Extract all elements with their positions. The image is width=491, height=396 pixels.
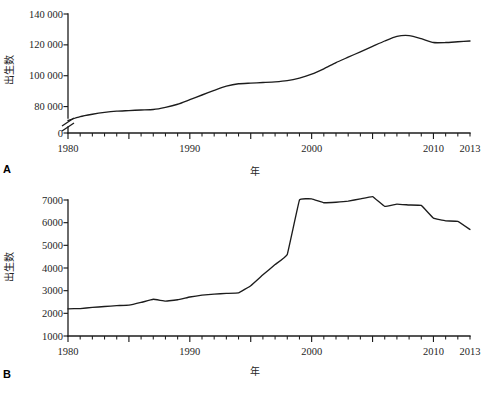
chart-panel-a: 出生数 080 000100 000120 000140 000 1980199…	[0, 0, 491, 198]
chart-b-axes	[68, 200, 470, 336]
chart-b-y-tick-label: 5000	[42, 240, 63, 251]
chart-b-x-tick-label: 1990	[179, 346, 200, 357]
chart-a-x-tick-label: 1980	[58, 143, 79, 154]
chart-a-data-line	[68, 36, 470, 121]
chart-b-x-tick-label: 1980	[58, 346, 79, 357]
panel-b-letter: B	[3, 368, 11, 380]
chart-b-y-tick-labels: 1000200030004000500060007000	[42, 195, 63, 342]
chart-b-y-tick-label: 2000	[42, 308, 63, 319]
chart-a-y-axis-title: 出生数	[3, 55, 15, 85]
chart-a-x-tick-label: 2010	[423, 143, 444, 154]
chart-b-x-tick-label: 2010	[423, 346, 444, 357]
chart-b-data-line	[68, 197, 470, 309]
chart-a-x-tick-label: 2013	[460, 143, 481, 154]
chart-b-x-tick-labels: 19801990200020102013	[58, 346, 481, 357]
chart-b-y-tick-label: 3000	[42, 285, 63, 296]
chart-a-y-tick-label: 0	[58, 128, 63, 139]
chart-b-y-tick-label: 7000	[42, 195, 63, 206]
chart-a-y-tick-label: 80 000	[34, 101, 63, 112]
chart-b-y-tick-label: 4000	[42, 263, 63, 274]
chart-a-x-tick-label: 2000	[301, 143, 322, 154]
chart-a-x-tick-label: 1990	[179, 143, 200, 154]
chart-a-x-axis-title: 年	[250, 165, 260, 177]
chart-a-y-tick-label: 120 000	[29, 39, 63, 50]
chart-a-y-tick-labels: 080 000100 000120 000140 000	[29, 9, 63, 139]
chart-b-y-tick-label: 6000	[42, 217, 63, 228]
figure-container: 出生数 080 000100 000120 000140 000 1980199…	[0, 0, 491, 396]
chart-b-y-tick-label: 1000	[42, 331, 63, 342]
chart-a-x-tick-labels: 19801990200020102013	[58, 143, 481, 154]
chart-a-tick-marks	[64, 14, 471, 139]
chart-a-axes	[68, 14, 470, 133]
chart-b-x-axis-title: 年	[250, 365, 260, 377]
chart-a-y-tick-label: 140 000	[29, 9, 63, 20]
chart-a-y-tick-label: 100 000	[29, 70, 63, 81]
chart-b-x-tick-label: 2000	[301, 346, 322, 357]
chart-b-x-tick-label: 2013	[460, 346, 481, 357]
chart-a-svg: 出生数 080 000100 000120 000140 000 1980199…	[0, 0, 491, 198]
chart-b-y-axis-title: 出生数	[3, 252, 15, 282]
panel-a-letter: A	[3, 163, 11, 175]
chart-panel-b: 出生数 1000200030004000500060007000 1980199…	[0, 185, 491, 396]
chart-b-svg: 出生数 1000200030004000500060007000 1980199…	[0, 185, 491, 396]
